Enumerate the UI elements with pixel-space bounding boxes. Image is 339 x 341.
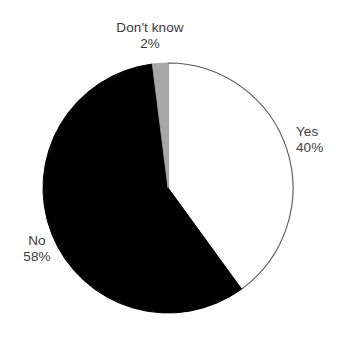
pie-label-yes-name: Yes: [296, 124, 323, 140]
pie-label-dontknow-name: Don't know: [0, 20, 300, 36]
pie-label-dontknow-value: 2%: [0, 36, 300, 52]
pie-label-no-name: No: [14, 233, 60, 249]
pie-label-yes-value: 40%: [296, 140, 323, 156]
pie-chart-canvas: [0, 0, 339, 341]
pie-label-yes: Yes 40%: [296, 124, 323, 155]
pie-label-no-value: 58%: [14, 249, 60, 265]
pie-label-dontknow: Don't know 2%: [0, 20, 300, 51]
pie-chart: Don't know 2% Yes 40% No 58%: [0, 0, 339, 341]
pie-label-no: No 58%: [14, 233, 60, 264]
